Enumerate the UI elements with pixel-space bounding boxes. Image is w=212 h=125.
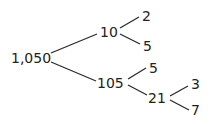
node-5-a: 5: [143, 38, 152, 54]
node-10: 10: [100, 24, 118, 40]
node-5-b: 5: [149, 60, 158, 76]
node-3: 3: [191, 76, 200, 92]
factor-tree-diagram: 1,050 10 2 5 105 5 21 3 7: [0, 0, 212, 125]
node-7: 7: [191, 102, 200, 118]
edge-105-21: [128, 85, 147, 95]
edge-105-5: [128, 68, 146, 79]
node-2: 2: [142, 8, 151, 24]
edge-1050-105: [51, 62, 96, 81]
edge-10-5: [120, 34, 140, 44]
edge-10-2: [120, 17, 139, 28]
edge-21-7: [170, 100, 189, 110]
edge-21-3: [170, 86, 188, 96]
node-105: 105: [97, 75, 124, 91]
node-21: 21: [148, 90, 166, 106]
edge-1050-10: [51, 34, 97, 53]
node-root: 1,050: [11, 50, 51, 66]
